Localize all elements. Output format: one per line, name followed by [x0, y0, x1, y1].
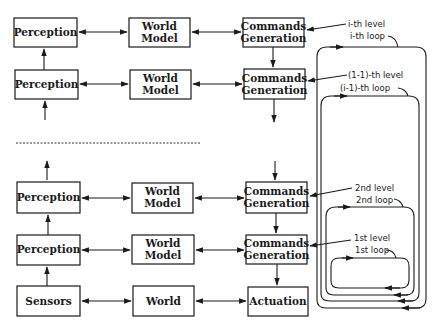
connector	[394, 199, 403, 207]
label-level-2: 2nd level 2nd loop	[310, 183, 403, 207]
world-box: World	[133, 286, 194, 316]
connector	[388, 36, 398, 47]
commands-generation-box-level-i-1: Commands Generation	[242, 69, 308, 99]
level-i-row: Perception World Model Commands Generati…	[14, 18, 307, 47]
level-2-row: Perception World Model Commands Generati…	[17, 182, 310, 213]
svg-text:Perception: Perception	[17, 243, 81, 255]
svg-text:World: World	[144, 185, 180, 197]
base-row: Sensors World Actuation	[17, 286, 308, 316]
pointer-arrow-icon	[310, 240, 351, 246]
svg-text:Commands: Commands	[241, 20, 306, 32]
hierarchical-control-diagram: Perception World Model Commands Generati…	[0, 0, 439, 328]
svg-text:(i-1)-th loop: (i-1)-th loop	[340, 83, 390, 93]
world-model-box-level-i: World Model	[129, 18, 190, 47]
svg-text:Model: Model	[142, 84, 179, 96]
pointer-arrow-icon	[310, 188, 352, 196]
svg-text:Actuation: Actuation	[248, 295, 307, 307]
svg-text:Model: Model	[145, 249, 182, 261]
svg-text:Commands: Commands	[244, 185, 309, 197]
svg-text:Generation: Generation	[244, 249, 310, 261]
world-model-box-level-2: World Model	[132, 183, 193, 213]
svg-text:2nd loop: 2nd loop	[356, 195, 393, 205]
svg-text:Perception: Perception	[14, 26, 78, 38]
svg-text:Model: Model	[144, 197, 181, 209]
pointer-arrow-icon	[308, 75, 347, 81]
world-model-box-level-1: World Model	[132, 235, 194, 264]
world-model-box-level-i-1: World Model	[130, 70, 191, 99]
connector	[398, 88, 408, 96]
svg-text:Perception: Perception	[17, 191, 81, 203]
svg-text:Perception: Perception	[15, 78, 79, 90]
svg-text:Commands: Commands	[244, 237, 309, 249]
svg-text:2nd level: 2nd level	[355, 183, 394, 193]
svg-text:World: World	[142, 72, 178, 84]
svg-text:Generation: Generation	[242, 84, 308, 96]
svg-text:Commands: Commands	[242, 72, 307, 84]
svg-text:i-th loop: i-th loop	[350, 31, 385, 41]
commands-generation-box-level-i: Commands Generation	[241, 18, 307, 47]
loop-1	[331, 258, 409, 288]
sensors-box: Sensors	[17, 286, 80, 316]
svg-text:1st loop: 1st loop	[355, 245, 389, 255]
svg-text:(1-1)-th level: (1-1)-th level	[348, 70, 403, 80]
label-level-i-minus-1: (1-1)-th level (i-1)-th loop	[308, 70, 408, 96]
svg-text:Generation: Generation	[244, 197, 310, 209]
level-1-row: Perception World Model Commands Generati…	[17, 235, 310, 265]
perception-box-level-2: Perception	[17, 182, 81, 213]
perception-box-level-i: Perception	[14, 18, 78, 47]
label-level-1: 1st level 1st loop	[310, 233, 396, 258]
actuation-box: Actuation	[248, 287, 308, 316]
level-i-minus-1-row: Perception World Model Commands Generati…	[15, 69, 308, 99]
svg-text:World: World	[141, 20, 177, 32]
svg-text:Generation: Generation	[241, 32, 307, 44]
svg-text:World: World	[145, 237, 181, 249]
commands-generation-box-level-1: Commands Generation	[244, 235, 310, 264]
perception-box-level-1: Perception	[17, 235, 81, 265]
svg-text:i-th level: i-th level	[348, 19, 385, 29]
svg-text:World: World	[145, 295, 181, 307]
svg-text:Model: Model	[141, 32, 178, 44]
svg-text:1st level: 1st level	[354, 233, 390, 243]
perception-box-level-i-1: Perception	[15, 70, 79, 99]
svg-text:Sensors: Sensors	[25, 295, 71, 307]
label-level-i: i-th level i-th loop	[307, 19, 398, 47]
commands-generation-box-level-2: Commands Generation	[244, 182, 310, 213]
pointer-arrow-icon	[307, 24, 346, 30]
